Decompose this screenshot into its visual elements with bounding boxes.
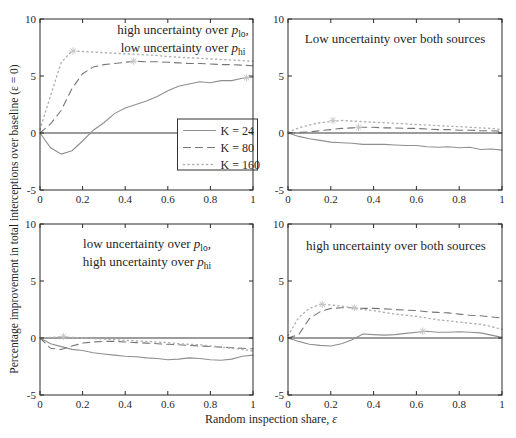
legend-label: K = 80 [221, 141, 254, 155]
panel-top-right: 00.20.40.60.81-50510Low uncertainty over… [273, 13, 505, 205]
y-tick-label: 0 [31, 127, 37, 139]
x-tick-label: 0.2 [76, 398, 90, 410]
y-tick-label: -5 [275, 184, 285, 196]
panel-top-left: K = 24K = 80K = 16000.20.40.60.81-50510h… [25, 13, 260, 205]
series-line-K=80 [288, 127, 502, 133]
y-tick-label: -5 [275, 389, 285, 401]
x-tick-label: 0.4 [367, 193, 381, 205]
series-line-K=160 [40, 51, 253, 130]
x-tick-label: 0.4 [367, 398, 381, 410]
x-tick-label: 0.4 [118, 193, 132, 205]
y-tick-label: 0 [279, 332, 285, 344]
y-tick-label: 5 [31, 275, 37, 287]
y-axis-label: Percentage improvement in total intercep… [8, 53, 20, 385]
y-tick-label: 10 [25, 218, 37, 230]
x-axis-label-text: Random inspection share, [205, 412, 332, 426]
x-tick-label: 0.8 [204, 398, 218, 410]
panel-bottom-right: 00.20.40.60.81-50510high uncertainty ove… [273, 218, 505, 410]
panel-title-line: high uncertainty over both sources [306, 238, 486, 253]
x-tick-label: 0.4 [118, 398, 132, 410]
x-tick-label: 1 [499, 193, 505, 205]
x-tick-label: 0 [285, 193, 291, 205]
y-tick-label: 0 [279, 127, 285, 139]
x-tick-label: 0.8 [204, 193, 218, 205]
y-tick-label: -5 [27, 389, 37, 401]
x-tick-label: 0.6 [161, 398, 175, 410]
x-tick-label: 0.8 [452, 398, 466, 410]
series-line-K=24 [288, 133, 502, 150]
legend: K = 24K = 80K = 160 [178, 119, 260, 172]
x-tick-label: 0.2 [324, 398, 338, 410]
x-tick-label: 0.2 [324, 193, 338, 205]
y-tick-label: 5 [31, 70, 37, 82]
peak-marker-K=160 [69, 47, 76, 54]
figure-canvas: K = 24K = 80K = 16000.20.40.60.81-50510h… [0, 0, 516, 438]
x-tick-label: 0 [37, 193, 43, 205]
panel-title-line: low uncertainty over plo, [83, 236, 211, 253]
peak-marker-K=80 [355, 124, 362, 131]
y-tick-label: 10 [25, 13, 37, 25]
panel-title-line: high uncertainty over plo, [117, 22, 249, 39]
y-tick-label: 5 [279, 275, 285, 287]
peak-marker-K=160 [319, 301, 326, 308]
x-axis-label: Random inspection share, ε [40, 412, 502, 427]
peak-marker-K=80 [130, 58, 137, 65]
peak-marker-K=80 [351, 304, 358, 311]
panel-title-line: low uncertainty over phi [121, 40, 246, 57]
x-tick-label: 0.2 [76, 193, 90, 205]
x-tick-label: 0 [37, 398, 43, 410]
y-tick-label: 10 [273, 218, 285, 230]
x-tick-label: 1 [250, 398, 256, 410]
peak-marker-K=24 [243, 74, 250, 81]
y-tick-label: 10 [273, 13, 285, 25]
legend-label: K = 24 [221, 124, 254, 138]
peak-marker-K=24 [419, 328, 426, 335]
peak-marker-K=160 [329, 117, 336, 124]
panel-bottom-left: 00.20.40.60.81-50510low uncertainty over… [25, 218, 256, 410]
x-tick-label: 0 [285, 398, 291, 410]
x-tick-label: 0.6 [161, 193, 175, 205]
series-line-K=80 [40, 338, 253, 349]
y-tick-label: 0 [31, 332, 37, 344]
x-tick-label: 1 [250, 193, 256, 205]
x-tick-label: 1 [499, 398, 505, 410]
x-tick-label: 0.8 [452, 193, 466, 205]
epsilon-symbol: ε [332, 412, 337, 426]
series-line-K=24 [288, 331, 502, 346]
figure-2x2-line-plots: K = 24K = 80K = 16000.20.40.60.81-50510h… [0, 0, 516, 438]
x-tick-label: 0.6 [410, 193, 424, 205]
x-tick-label: 0.6 [410, 398, 424, 410]
panel-title-line: high uncertainty over phi [83, 254, 212, 271]
legend-label: K = 160 [221, 158, 260, 172]
peak-marker-K=160 [60, 333, 67, 340]
y-tick-label: 5 [279, 70, 285, 82]
y-tick-label: -5 [27, 184, 37, 196]
panel-title-line: Low uncertainty over both sources [305, 31, 486, 46]
series-line-K=160 [288, 304, 502, 335]
